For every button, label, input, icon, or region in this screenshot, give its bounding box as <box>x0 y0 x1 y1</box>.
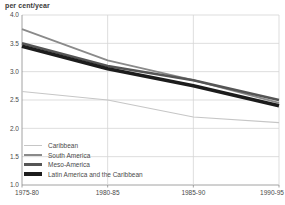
legend-label: Meso-America <box>48 161 90 168</box>
legend-item: Caribbean <box>24 141 143 150</box>
x-tick-label: 1985-90 <box>181 189 205 196</box>
x-tick-label: 1980-85 <box>96 189 120 196</box>
y-tick-label: 2.5 <box>10 96 19 103</box>
legend-label: Caribbean <box>48 142 78 149</box>
y-tick-label: 1.0 <box>10 181 19 188</box>
legend-item: South America <box>24 151 143 160</box>
legend-item: Meso-America <box>24 160 143 169</box>
legend-item: Latin America and the Caribbean <box>24 170 143 179</box>
y-tick-label: 3.5 <box>10 40 19 47</box>
legend-label: Latin America and the Caribbean <box>48 171 143 178</box>
legend-line-swatch <box>24 154 42 156</box>
y-tick-label: 1.5 <box>10 153 19 160</box>
growth-rate-line-chart: per cent/year 4.03.53.02.52.01.51.01975-… <box>0 0 285 205</box>
x-tick-label: 1975-80 <box>15 189 39 196</box>
y-tick-label: 3.0 <box>10 68 19 75</box>
legend-line-swatch <box>24 172 42 176</box>
y-tick-label: 4.0 <box>10 11 19 18</box>
series-line-latin-america-and-the-caribbean <box>22 46 279 105</box>
legend: CaribbeanSouth AmericaMeso-AmericaLatin … <box>24 141 143 179</box>
x-tick-label: 1990-95 <box>260 189 284 196</box>
y-tick-label: 2.0 <box>10 125 19 132</box>
legend-line-swatch <box>24 163 42 166</box>
legend-label: South America <box>48 152 90 159</box>
legend-line-swatch <box>24 145 42 146</box>
